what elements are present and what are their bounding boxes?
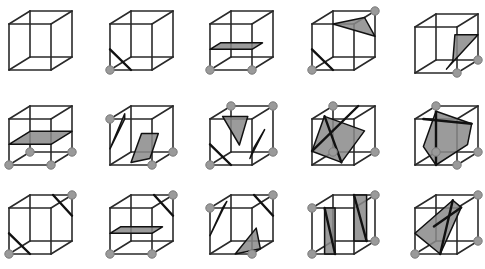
inside-vertex-marker (453, 161, 461, 169)
cube-case-3 (308, 7, 379, 74)
isosurface-polygon (223, 116, 248, 145)
cube-edge (110, 11, 131, 24)
cube-edge (51, 106, 72, 119)
cube-edge (415, 14, 436, 27)
inside-vertex-marker (169, 191, 177, 199)
inside-vertex-marker (269, 191, 277, 199)
cube-edge (210, 241, 231, 254)
cube-edge (152, 57, 173, 70)
inside-vertex-marker (106, 115, 114, 123)
inside-vertex-marker (474, 148, 482, 156)
cube-case-9 (415, 102, 482, 169)
inside-vertex-marker (474, 191, 482, 199)
cube-edge (110, 152, 131, 165)
inside-vertex-marker (206, 161, 214, 169)
inside-vertex-marker (329, 148, 337, 156)
cube-edge (457, 106, 478, 119)
cube-case-0 (9, 11, 72, 70)
cube-edge (51, 57, 72, 70)
inside-vertex-marker (26, 148, 34, 156)
inside-vertex-marker (148, 250, 156, 258)
cube-case-2 (206, 11, 273, 74)
inside-vertex-marker (329, 102, 337, 110)
inside-vertex-marker (269, 102, 277, 110)
cube-edge (9, 11, 30, 24)
cube-edge (354, 57, 375, 70)
inside-vertex-marker (169, 148, 177, 156)
inside-vertex-marker (371, 7, 379, 15)
inside-vertex-marker (453, 69, 461, 77)
inside-vertex-marker (308, 204, 316, 212)
cube-case-14 (411, 191, 482, 258)
cube-edge (51, 11, 72, 24)
inside-vertex-marker (106, 66, 114, 74)
inside-vertex-marker (474, 56, 482, 64)
marching-cubes-diagram (0, 0, 485, 269)
inside-vertex-marker (411, 250, 419, 258)
cube-edge (252, 11, 273, 24)
inside-vertex-marker (47, 161, 55, 169)
cube-edge (152, 11, 173, 24)
inside-vertex-marker (206, 204, 214, 212)
cube-case-10 (5, 191, 76, 258)
inside-vertex-marker (248, 250, 256, 258)
inside-vertex-marker (5, 161, 13, 169)
inside-vertex-marker (227, 102, 235, 110)
inside-vertex-marker (371, 237, 379, 245)
cube-case-8 (312, 102, 379, 165)
cube-case-11 (106, 191, 177, 258)
inside-vertex-marker (248, 66, 256, 74)
cube-edge (9, 106, 30, 119)
cube-edge (51, 241, 72, 254)
inside-vertex-marker (5, 250, 13, 258)
isosurface-polygon (210, 43, 263, 50)
inside-vertex-marker (269, 148, 277, 156)
cube-edge (9, 57, 30, 70)
cube-case-1 (106, 11, 173, 74)
cube-edge (9, 195, 30, 208)
inside-vertex-marker (308, 250, 316, 258)
inside-vertex-marker (371, 148, 379, 156)
cube-edge (110, 195, 131, 208)
inside-vertex-marker (68, 148, 76, 156)
inside-vertex-marker (148, 161, 156, 169)
cube-edge (415, 195, 436, 208)
inside-vertex-marker (308, 66, 316, 74)
cube-case-5 (5, 106, 76, 169)
inside-vertex-marker (474, 237, 482, 245)
inside-vertex-marker (432, 102, 440, 110)
inside-vertex-marker (106, 250, 114, 258)
isosurface-polygon (131, 134, 158, 163)
inside-vertex-marker (432, 148, 440, 156)
cube-case-13 (308, 191, 379, 258)
cube-case-4 (415, 14, 482, 77)
cube-edge (457, 14, 478, 27)
cube-edge (312, 11, 333, 24)
cube-edge (415, 60, 436, 73)
cube-case-7 (206, 102, 277, 169)
cube-edge (152, 106, 173, 119)
inside-vertex-marker (371, 191, 379, 199)
cube-case-6 (106, 106, 177, 169)
isosurface-polygon (110, 227, 163, 234)
inside-vertex-marker (68, 191, 76, 199)
isosurface-polygon (447, 35, 479, 69)
cube-edge (210, 11, 231, 24)
inside-vertex-marker (206, 66, 214, 74)
isosurface-polygon (9, 131, 72, 144)
cube-case-12 (206, 191, 277, 258)
